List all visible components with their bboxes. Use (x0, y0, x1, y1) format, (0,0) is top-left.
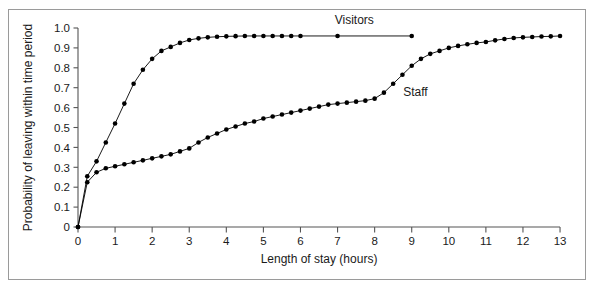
series-label-staff: Staff (403, 85, 428, 99)
data-point-staff (141, 158, 146, 163)
y-axis-tick-label: 0.7 (54, 82, 70, 94)
data-point-staff (224, 127, 229, 132)
data-point-visitors (252, 34, 257, 39)
data-point-staff (447, 46, 452, 51)
data-point-visitors (168, 45, 173, 50)
y-axis-tick-label: 0 (64, 221, 70, 233)
data-point-staff (521, 35, 526, 40)
data-point-visitors (243, 34, 248, 39)
y-axis-tick-label: 0.6 (54, 102, 70, 114)
data-point-visitors (85, 174, 90, 179)
data-point-staff (187, 146, 192, 151)
data-point-visitors (122, 101, 127, 106)
data-point-visitors (196, 36, 201, 41)
data-point-staff (428, 52, 433, 57)
data-point-visitors (270, 34, 275, 39)
x-axis-tick-label: 10 (442, 235, 455, 247)
data-point-staff (372, 96, 377, 101)
x-axis-tick-label: 3 (186, 235, 192, 247)
y-axis-tick-label: 0.3 (54, 162, 70, 174)
x-axis-tick-label: 5 (260, 235, 266, 247)
y-axis-tick-label: 0.9 (54, 42, 70, 54)
x-axis-tick-label: 0 (75, 235, 81, 247)
data-point-staff (261, 116, 266, 121)
data-point-visitors (187, 38, 192, 43)
y-axis-tick-label: 0.1 (54, 201, 70, 213)
data-point-visitors (159, 49, 164, 54)
data-point-staff (326, 102, 331, 107)
data-point-staff (456, 44, 461, 49)
data-point-staff (150, 156, 155, 161)
data-point-staff (400, 72, 405, 77)
data-point-visitors (280, 34, 285, 39)
data-point-visitors (335, 34, 340, 39)
y-axis-tick-label: 0.2 (54, 181, 70, 193)
data-point-visitors (113, 121, 118, 126)
data-point-staff (307, 106, 312, 111)
data-point-staff (280, 112, 285, 117)
data-point-staff (178, 149, 183, 154)
data-point-staff (243, 121, 248, 126)
data-point-staff (233, 124, 238, 129)
data-point-staff (465, 42, 470, 47)
data-point-staff (205, 135, 210, 140)
x-axis-tick-label: 4 (223, 235, 230, 247)
x-axis-tick-label: 8 (371, 235, 377, 247)
x-axis-title: Length of stay (hours) (261, 252, 378, 266)
data-point-staff (530, 35, 535, 40)
data-point-staff (270, 114, 275, 119)
x-axis-tick-label: 2 (149, 235, 155, 247)
data-point-staff (298, 108, 303, 113)
data-point-visitors (131, 81, 136, 86)
data-point-visitors (409, 34, 414, 39)
data-point-visitors (224, 34, 229, 39)
data-point-visitors (150, 57, 155, 62)
data-point-visitors (298, 34, 303, 39)
data-point-staff (94, 170, 99, 175)
data-point-visitors (141, 67, 146, 72)
series-label-visitors: Visitors (335, 13, 374, 27)
data-point-staff (474, 41, 479, 46)
data-point-staff (382, 90, 387, 95)
x-axis-tick-label: 9 (409, 235, 415, 247)
chart-figure: 00.10.20.30.40.50.60.70.80.91.0012345678… (0, 0, 598, 293)
data-point-staff (196, 140, 201, 145)
data-point-staff (493, 38, 498, 43)
data-point-staff (215, 131, 220, 136)
data-point-staff (484, 40, 489, 45)
data-point-staff (104, 166, 109, 171)
data-point-staff (289, 110, 294, 115)
data-point-staff (548, 34, 553, 39)
data-point-visitors (94, 159, 99, 164)
data-point-staff (345, 100, 350, 105)
data-point-staff (335, 101, 340, 106)
data-point-visitors (261, 34, 266, 39)
chart-plot-area: 00.10.20.30.40.50.60.70.80.91.0012345678… (0, 0, 598, 293)
data-point-staff (558, 34, 563, 39)
x-axis-tick-label: 11 (480, 235, 492, 247)
series-line-visitors (78, 36, 412, 227)
series-line-staff (78, 36, 560, 227)
data-point-visitors (215, 34, 220, 39)
x-axis-tick-label: 12 (517, 235, 530, 247)
y-axis-tick-label: 0.4 (54, 142, 71, 154)
data-point-staff (354, 99, 359, 104)
data-point-staff (252, 119, 257, 124)
data-point-staff (317, 104, 322, 109)
data-point-staff (168, 152, 173, 157)
data-point-visitors (205, 35, 210, 40)
data-point-staff (76, 225, 81, 230)
data-point-staff (85, 180, 90, 185)
x-axis-tick-label: 13 (554, 235, 567, 247)
data-point-staff (122, 162, 127, 167)
data-point-staff (502, 37, 507, 42)
y-axis-tick-label: 0.8 (54, 62, 70, 74)
data-point-staff (539, 34, 544, 39)
data-point-staff (391, 81, 396, 86)
y-axis-tick-label: 1.0 (54, 22, 70, 34)
data-point-staff (419, 57, 424, 62)
x-axis-tick-label: 7 (334, 235, 340, 247)
data-point-staff (113, 164, 118, 169)
data-point-staff (159, 154, 164, 159)
data-point-visitors (104, 140, 109, 145)
